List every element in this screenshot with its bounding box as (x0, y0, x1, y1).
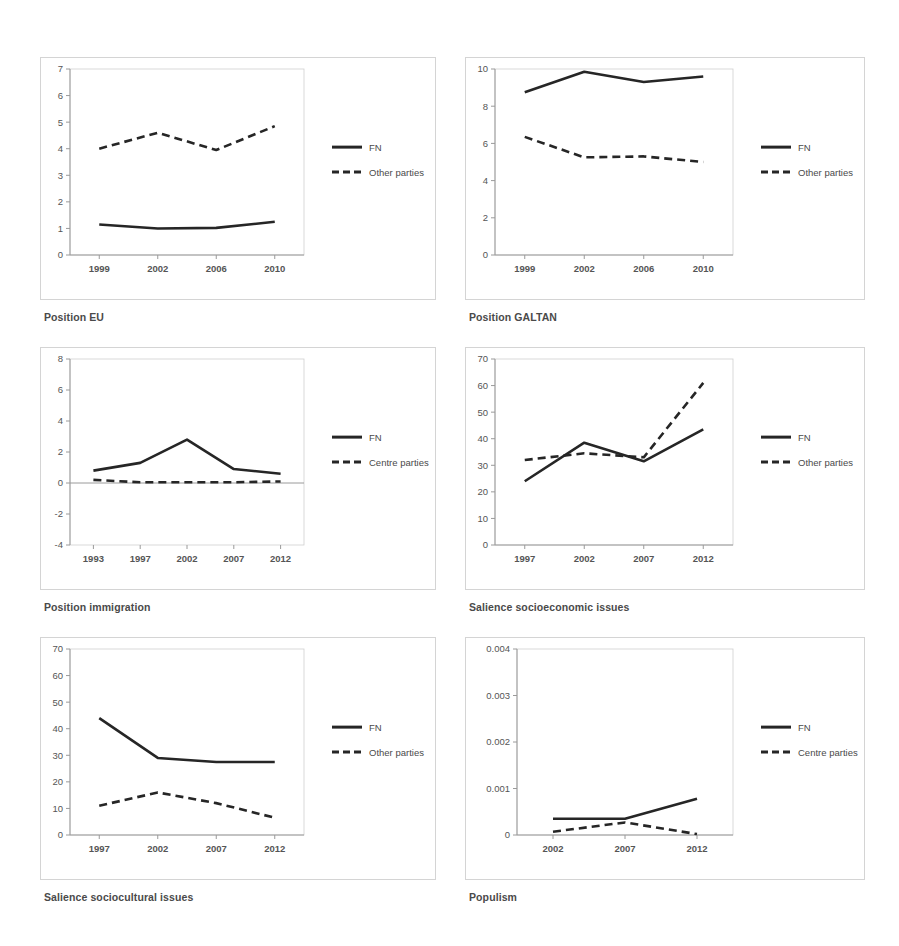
svg-text:2002: 2002 (574, 553, 595, 564)
panel-salience-sociocultural: 0102030405060701997200220072012FNOther p… (40, 637, 436, 905)
svg-text:50: 50 (52, 697, 63, 708)
panel-salience-socioeconomic: 0102030405060701997200220072012FNOther p… (465, 347, 865, 615)
svg-text:20: 20 (52, 776, 63, 787)
svg-text:60: 60 (477, 380, 488, 391)
svg-text:6: 6 (58, 384, 63, 395)
svg-text:0: 0 (505, 829, 510, 840)
svg-text:30: 30 (477, 460, 488, 471)
svg-text:2007: 2007 (633, 553, 654, 564)
svg-text:2: 2 (58, 446, 63, 457)
svg-text:1999: 1999 (514, 263, 535, 274)
svg-text:3: 3 (58, 170, 63, 181)
caption-position-galtan: Position GALTAN (469, 311, 557, 323)
chart-position-eu: 012345671999200220062010FNOther parties (40, 57, 436, 300)
svg-text:0.001: 0.001 (486, 783, 510, 794)
svg-text:2007: 2007 (206, 843, 227, 854)
svg-text:7: 7 (58, 63, 63, 74)
svg-text:5: 5 (58, 117, 63, 128)
svg-text:2007: 2007 (223, 553, 244, 564)
svg-text:0: 0 (58, 829, 63, 840)
svg-text:1997: 1997 (130, 553, 151, 564)
svg-text:FN: FN (369, 432, 382, 443)
svg-text:8: 8 (483, 101, 488, 112)
svg-text:0: 0 (58, 249, 63, 260)
svg-text:40: 40 (477, 433, 488, 444)
svg-text:2012: 2012 (686, 843, 707, 854)
panel-populism: 00.0010.0020.0030.004200220072012FNCentr… (465, 637, 865, 905)
svg-text:1999: 1999 (89, 263, 110, 274)
svg-text:70: 70 (52, 643, 63, 654)
svg-text:2007: 2007 (614, 843, 635, 854)
svg-text:50: 50 (477, 407, 488, 418)
svg-text:2012: 2012 (693, 553, 714, 564)
svg-text:2010: 2010 (264, 263, 285, 274)
svg-text:FN: FN (369, 722, 382, 733)
svg-text:2010: 2010 (693, 263, 714, 274)
caption-position-eu: Position EU (44, 311, 104, 323)
svg-text:2002: 2002 (176, 553, 197, 564)
svg-text:1: 1 (58, 223, 63, 234)
svg-text:60: 60 (52, 670, 63, 681)
svg-text:Other parties: Other parties (369, 747, 424, 758)
svg-text:0: 0 (58, 477, 63, 488)
svg-text:6: 6 (58, 90, 63, 101)
svg-text:1997: 1997 (514, 553, 535, 564)
svg-text:2002: 2002 (542, 843, 563, 854)
svg-text:Other parties: Other parties (798, 167, 853, 178)
svg-text:FN: FN (798, 722, 811, 733)
chart-salience-sociocultural: 0102030405060701997200220072012FNOther p… (40, 637, 436, 880)
svg-text:0: 0 (483, 539, 488, 550)
svg-text:10: 10 (52, 803, 63, 814)
svg-text:6: 6 (483, 138, 488, 149)
panel-position-galtan: 02468101999200220062010FNOther parties P… (465, 57, 865, 325)
svg-text:2: 2 (483, 212, 488, 223)
svg-text:2006: 2006 (633, 263, 654, 274)
svg-text:4: 4 (58, 415, 63, 426)
svg-text:Centre parties: Centre parties (369, 457, 429, 468)
svg-text:2006: 2006 (206, 263, 227, 274)
svg-text:4: 4 (58, 143, 63, 154)
svg-text:0: 0 (483, 249, 488, 260)
svg-text:Other parties: Other parties (369, 167, 424, 178)
svg-text:10: 10 (477, 63, 488, 74)
svg-text:2002: 2002 (574, 263, 595, 274)
caption-populism: Populism (469, 891, 517, 903)
svg-text:8: 8 (58, 353, 63, 364)
svg-text:2002: 2002 (147, 263, 168, 274)
svg-text:30: 30 (52, 750, 63, 761)
svg-text:70: 70 (477, 353, 488, 364)
svg-text:FN: FN (798, 432, 811, 443)
chart-populism: 00.0010.0020.0030.004200220072012FNCentr… (465, 637, 865, 880)
panel-position-eu: 012345671999200220062010FNOther parties … (40, 57, 436, 325)
svg-text:0.002: 0.002 (486, 736, 510, 747)
chart-position-immigration: -4-20246819931997200220072012FNCentre pa… (40, 347, 436, 590)
svg-text:FN: FN (798, 142, 811, 153)
svg-text:2012: 2012 (264, 843, 285, 854)
svg-text:4: 4 (483, 175, 488, 186)
chart-position-galtan: 02468101999200220062010FNOther parties (465, 57, 865, 300)
svg-text:-4: -4 (55, 539, 63, 550)
svg-text:-2: -2 (55, 508, 63, 519)
svg-text:20: 20 (477, 486, 488, 497)
svg-text:0.003: 0.003 (486, 690, 510, 701)
svg-text:Other parties: Other parties (798, 457, 853, 468)
svg-text:0.004: 0.004 (486, 643, 510, 654)
chart-salience-socioeconomic: 0102030405060701997200220072012FNOther p… (465, 347, 865, 590)
svg-text:1997: 1997 (89, 843, 110, 854)
svg-text:2: 2 (58, 196, 63, 207)
svg-text:2012: 2012 (270, 553, 291, 564)
svg-text:FN: FN (369, 142, 382, 153)
svg-text:1993: 1993 (83, 553, 104, 564)
svg-text:10: 10 (477, 513, 488, 524)
panel-position-immigration: -4-20246819931997200220072012FNCentre pa… (40, 347, 436, 615)
caption-position-immigration: Position immigration (44, 601, 150, 613)
figure-page: 012345671999200220062010FNOther parties … (0, 0, 899, 946)
svg-text:2002: 2002 (147, 843, 168, 854)
caption-salience-socioeconomic: Salience socioeconomic issues (469, 601, 629, 613)
svg-text:40: 40 (52, 723, 63, 734)
caption-salience-sociocultural: Salience sociocultural issues (44, 891, 193, 903)
svg-text:Centre parties: Centre parties (798, 747, 858, 758)
